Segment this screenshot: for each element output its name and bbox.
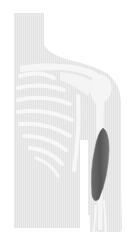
anatomy-illustration: upper arm muscle [0,0,137,245]
body-silhouette [0,0,137,245]
